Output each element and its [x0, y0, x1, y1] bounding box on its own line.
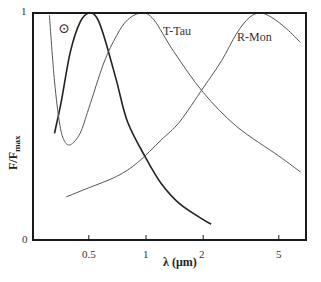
x-tick-label-1: 1 [143, 248, 149, 260]
sun-symbol-icon: ⊙ [58, 20, 70, 37]
y-tick-label-0: 0 [22, 233, 28, 245]
x-tick-label-2: 2 [199, 248, 205, 260]
x-tick-label-5: 5 [276, 248, 282, 260]
y-axis-label-main: F/F [6, 152, 20, 170]
x-tick-label-0.5: 0.5 [82, 248, 96, 260]
chart-canvas [0, 0, 321, 282]
y-axis-label-sub: max [12, 136, 22, 153]
plot-frame [33, 13, 306, 240]
label-r-mon: R-Mon [237, 30, 272, 45]
label-t-tau: T-Tau [163, 24, 191, 39]
y-axis-label: F/Fmax [6, 136, 22, 171]
x-axis-label: λ (μm) [163, 255, 197, 270]
y-tick-label-1: 1 [21, 5, 27, 17]
